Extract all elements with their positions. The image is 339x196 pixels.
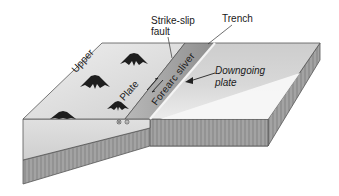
trench-label: Trench [222,14,253,24]
strike-slip-fault-label: Strike-slip fault [151,15,201,37]
trench-leader [208,25,232,44]
downgoing-plate-label: Downgoing plate [215,65,285,89]
downgoing-plate-front-face [150,119,268,146]
